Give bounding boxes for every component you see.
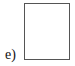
empty-rectangle: [24, 3, 70, 60]
figure-label: e): [5, 48, 16, 62]
